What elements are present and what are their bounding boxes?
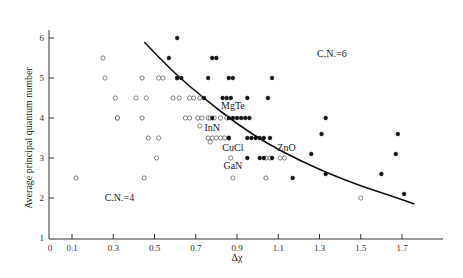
- cn6-point: [266, 96, 270, 100]
- x-tick-label: 0.7: [190, 243, 202, 253]
- cn6-point: [394, 152, 398, 156]
- cn6-point: [245, 156, 249, 160]
- cn4-point: [208, 140, 212, 144]
- cn4-point: [198, 96, 202, 100]
- cn6-point: [320, 132, 324, 136]
- x-axis-title: Δχ: [232, 252, 243, 263]
- cn6-point: [175, 36, 179, 40]
- cn4-point: [101, 56, 105, 60]
- annotation-label: CuCl: [222, 142, 243, 153]
- cn4-point: [187, 96, 191, 100]
- annotation-label: InN: [204, 122, 220, 133]
- cn4-point: [282, 156, 286, 160]
- cn4-point: [210, 136, 214, 140]
- cn6-point: [309, 152, 313, 156]
- cn6-point: [250, 136, 254, 140]
- cn6-point: [262, 136, 266, 140]
- cn4-point: [223, 136, 227, 140]
- cn6-point: [243, 116, 247, 120]
- cn4-point: [206, 136, 210, 140]
- cn4-point: [187, 116, 191, 120]
- cn4-point: [198, 124, 202, 128]
- cn6-point: [396, 132, 400, 136]
- cn4-point: [140, 116, 144, 120]
- axes: [49, 30, 443, 239]
- cn4-point: [74, 176, 78, 180]
- cn6-point: [210, 116, 214, 120]
- y-tick-label: 4: [40, 113, 45, 123]
- cn4-point: [113, 96, 117, 100]
- x-tick-label: 1.5: [355, 243, 367, 253]
- cn6-point: [239, 116, 243, 120]
- y-tick-label: 5: [40, 73, 45, 83]
- cn4-point: [177, 96, 181, 100]
- cn4-point: [161, 76, 165, 80]
- cn4-point: [218, 136, 222, 140]
- boundary-curve: [144, 42, 414, 204]
- cn4-point: [218, 116, 222, 120]
- x-tick-label: 0.5: [149, 243, 161, 253]
- y-ticks: 123456: [40, 33, 55, 243]
- cn4-point: [196, 116, 200, 120]
- cn4-point: [264, 176, 268, 180]
- cn4-point: [192, 96, 196, 100]
- cn6-point: [227, 116, 231, 120]
- annotation-label: C.N.=4: [105, 192, 135, 203]
- cn6-point: [245, 96, 249, 100]
- cn4-point: [359, 196, 363, 200]
- x-tick-label: 0.3: [108, 243, 120, 253]
- cn6-point: [175, 76, 179, 80]
- cn4-point: [214, 136, 218, 140]
- cn6-point: [210, 56, 214, 60]
- cn6-point: [324, 172, 328, 176]
- cn4-point: [140, 76, 144, 80]
- cn4-point: [103, 76, 107, 80]
- cn6-point: [231, 116, 235, 120]
- cn6-point: [235, 116, 239, 120]
- x-tick-label: 1.3: [314, 243, 326, 253]
- x-tick-label: 1.7: [396, 243, 408, 253]
- x-ticks: 00.10.30.50.70.91.11.31.51.7: [48, 234, 408, 253]
- y-axis-title: Average principal quantum number: [23, 66, 34, 208]
- data-points: [74, 36, 406, 200]
- cn6-point: [270, 76, 274, 80]
- cn6-point: [379, 172, 383, 176]
- cn6-point: [258, 156, 262, 160]
- cn4-point: [154, 156, 158, 160]
- x-tick-label: 0: [48, 243, 53, 253]
- cn4-point: [144, 96, 148, 100]
- cn6-point: [167, 56, 171, 60]
- cn4-point: [171, 96, 175, 100]
- y-tick-label: 6: [40, 33, 45, 43]
- cn6-point: [214, 56, 218, 60]
- cn6-point: [258, 136, 262, 140]
- cn4-point: [183, 116, 187, 120]
- cn4-point: [278, 156, 282, 160]
- cn4-point: [142, 176, 146, 180]
- annotations: C.N.=6C.N.=4MgTeInNCuClZnOGaN: [105, 48, 347, 203]
- scatter-chart: 00.10.30.50.70.91.11.31.51.7 123456 C.N.…: [0, 0, 463, 278]
- y-tick-label: 2: [40, 193, 45, 203]
- cn6-point: [245, 136, 249, 140]
- cn4-point: [146, 136, 150, 140]
- cn4-point: [200, 116, 204, 120]
- x-tick-label: 0.1: [66, 243, 77, 253]
- cn6-point: [179, 76, 183, 80]
- cn6-point: [324, 116, 328, 120]
- cn6-point: [227, 136, 231, 140]
- cn4-point: [157, 76, 161, 80]
- y-tick-label: 3: [40, 153, 45, 163]
- cn6-point: [270, 156, 274, 160]
- cn6-point: [268, 136, 272, 140]
- cn6-point: [291, 176, 295, 180]
- cn6-point: [254, 136, 258, 140]
- cn6-point: [247, 116, 251, 120]
- annotation-label: ZnO: [277, 142, 295, 153]
- cn6-point: [402, 192, 406, 196]
- cn4-point: [157, 136, 161, 140]
- cn6-point: [202, 96, 206, 100]
- cn4-point: [231, 176, 235, 180]
- annotation-label: GaN: [223, 160, 242, 171]
- y-tick-label: 1: [40, 233, 45, 243]
- cn6-point: [231, 76, 235, 80]
